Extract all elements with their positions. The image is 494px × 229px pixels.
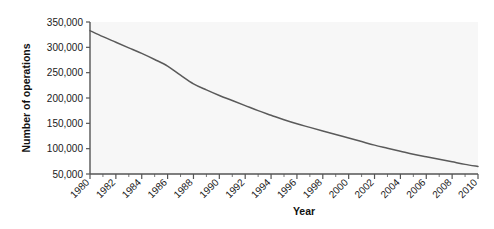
y-tick-label: 150,000	[47, 118, 84, 129]
y-tick-label: 200,000	[47, 93, 84, 104]
y-tick-label: 300,000	[47, 42, 84, 53]
y-tick-label: 250,000	[47, 67, 84, 78]
y-axis-title: Number of operations	[20, 43, 32, 152]
x-axis-title: Year	[293, 205, 315, 217]
chart-figure: 50,000100,000150,000200,000250,000300,00…	[0, 0, 494, 229]
y-tick-label: 350,000	[47, 17, 84, 28]
y-tick-label: 50,000	[52, 169, 83, 180]
line-chart: 50,000100,000150,000200,000250,000300,00…	[0, 0, 494, 229]
y-tick-label: 100,000	[47, 143, 84, 154]
plot-area-background	[90, 22, 478, 174]
